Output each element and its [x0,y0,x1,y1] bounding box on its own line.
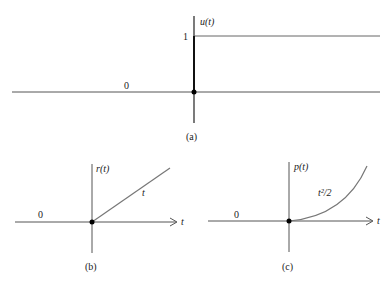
signal-figure: u(t) 1 0 (a) r(t) t 0 t (b) p(t) t²/2 0 … [0,0,392,282]
panel-c-caption: (c) [282,261,293,273]
panel-c-origin-dot [287,219,292,224]
panel-a-zero-label: 0 [124,80,129,91]
panel-b-origin-dot [90,220,95,225]
panel-c-zero-label: 0 [234,209,239,220]
panel-a-one-label: 1 [183,31,188,42]
panel-a-y-label: u(t) [200,16,215,28]
panel-b-ramp: r(t) t 0 t (b) [15,163,184,273]
panel-b-curve-label: t [142,187,145,198]
panel-a-caption: (a) [186,131,197,143]
panel-b-zero-label: 0 [38,209,43,220]
panel-b-caption: (b) [85,261,97,273]
panel-c-x-label: t [377,215,380,226]
panel-c-parabola: p(t) t²/2 0 t (c) [208,161,380,273]
panel-c-curve-label: t²/2 [318,187,332,198]
panel-c-y-label: p(t) [293,161,309,173]
panel-b-ramp-line [92,168,170,222]
panel-b-x-label: t [181,216,184,227]
panel-a-step: u(t) 1 0 (a) [12,16,380,143]
panel-a-origin-dot [192,90,197,95]
panel-b-y-label: r(t) [96,163,110,175]
